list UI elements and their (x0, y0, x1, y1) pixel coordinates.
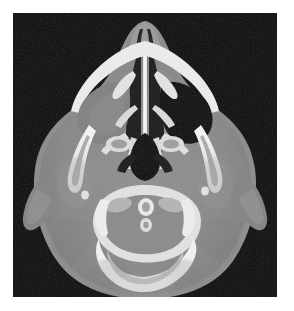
page-canvas (0, 0, 294, 311)
ct-scan-image (13, 13, 277, 297)
ct-scan-vector (13, 13, 277, 297)
image-grain (13, 13, 277, 297)
